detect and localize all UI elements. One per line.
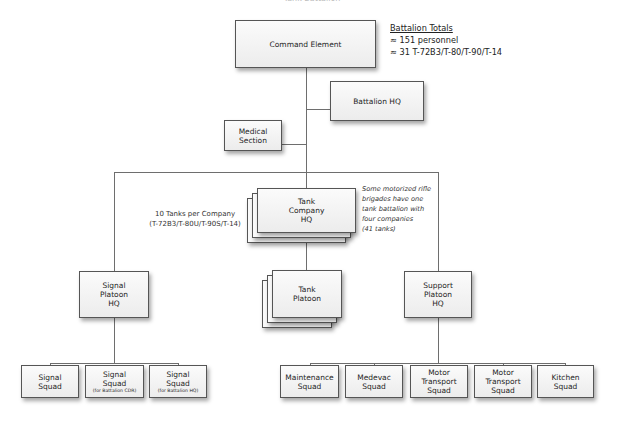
connector-battalion-hq xyxy=(306,109,330,110)
squad-label-line: Maintenance xyxy=(285,373,333,382)
signal-platoon-label-line-1: Signal xyxy=(100,281,128,290)
signal-squad-box: Signal Squad xyxy=(21,365,79,398)
support-platoon-label-line-3: HQ xyxy=(423,299,453,308)
squad-label-line: Transport xyxy=(421,377,456,386)
note-line: (41 tanks) xyxy=(362,224,452,234)
signal-squad-hq-box: Signal Squad (for Battalion HQ) xyxy=(149,365,207,398)
battalion-hq-box: Battalion HQ xyxy=(330,81,424,121)
support-platoon-hq-box: Support Platoon HQ xyxy=(404,271,472,318)
connector-signal-drop xyxy=(114,172,115,271)
medical-section-box: Medical Section xyxy=(224,120,282,151)
command-element-box: Command Element xyxy=(235,20,376,68)
note-line: four companies xyxy=(362,214,452,224)
connector-medical xyxy=(282,144,306,145)
squad-label-line: Squad xyxy=(421,386,456,395)
tank-platoon-label-line-1: Tank xyxy=(293,285,321,294)
medevac-squad-box: Medevac Squad xyxy=(345,365,403,398)
kitchen-squad-box: Kitchen Squad xyxy=(537,365,594,398)
tank-company-label-line-3: HQ xyxy=(289,215,325,224)
connector-signal-trunk xyxy=(114,318,115,363)
squad-label-line: Squad xyxy=(93,379,136,388)
battalion-hq-label: Battalion HQ xyxy=(353,97,401,106)
totals-tanks: ≈ 31 T-72B3/T-80/T-90/T-14 xyxy=(390,46,502,58)
support-platoon-label-line-2: Platoon xyxy=(423,290,453,299)
signal-platoon-label-line-2: Platoon xyxy=(100,290,128,299)
connector-support-trunk xyxy=(438,318,439,363)
squad-label-line: Motor xyxy=(485,368,520,377)
motor-transport-squad-box-1: Motor Transport Squad xyxy=(410,365,468,398)
squad-label-line: Squad xyxy=(38,382,62,391)
squad-label-line: Medevac xyxy=(357,373,391,382)
signal-platoon-label-line-3: HQ xyxy=(100,299,128,308)
command-element-label: Command Element xyxy=(270,40,342,49)
squad-label-line: Squad xyxy=(551,382,579,391)
squad-label-line: Signal xyxy=(93,370,136,379)
battalion-totals: Battalion Totals ≈ 151 personnel ≈ 31 T-… xyxy=(390,22,502,58)
maintenance-squad-box: Maintenance Squad xyxy=(280,365,339,398)
tank-company-label-line-2: Company xyxy=(289,206,325,215)
totals-heading: Battalion Totals xyxy=(390,22,502,34)
squad-label-line: Squad xyxy=(485,386,520,395)
motorized-rifle-note: Some motorized rifle brigades have one t… xyxy=(362,184,452,234)
tank-company-hq-box: Tank Company HQ xyxy=(257,188,356,233)
squad-label-line: Kitchen xyxy=(551,373,579,382)
squad-label-line: Motor xyxy=(421,368,456,377)
connector-company-drop xyxy=(306,172,307,188)
support-platoon-label-line-1: Support xyxy=(423,281,453,290)
squad-label-line: Transport xyxy=(485,377,520,386)
note-line: brigades have one xyxy=(362,194,452,204)
tank-company-label-line-1: Tank xyxy=(289,197,325,206)
squad-label-line: Squad xyxy=(285,382,333,391)
connector-signal-bar xyxy=(50,363,179,364)
connector-support-bar xyxy=(310,363,566,364)
squad-label-line: Squad xyxy=(158,379,199,388)
totals-personnel: ≈ 151 personnel xyxy=(390,34,502,46)
motor-transport-squad-box-2: Motor Transport Squad xyxy=(474,365,532,398)
signal-squad-cdr-box: Signal Squad (for Battalion CDR) xyxy=(85,365,144,398)
tank-platoon-box: Tank Platoon xyxy=(272,270,342,318)
squad-sublabel: (for Battalion CDR) xyxy=(93,388,136,394)
cut-off-title: Tank Battalion xyxy=(232,0,392,2)
tanks-per-company-note: 10 Tanks per Company (T-72B3/T-80U/T-90S… xyxy=(140,209,250,229)
signal-platoon-hq-box: Signal Platoon HQ xyxy=(79,271,149,318)
connector-main-bar xyxy=(114,172,439,173)
note-line: tank battalion with xyxy=(362,204,452,214)
medical-label-line-2: Section xyxy=(239,136,268,145)
connector-command-trunk xyxy=(306,68,307,172)
note-line-2: (T-72B3/T-80U/T-90S/T-14) xyxy=(140,219,250,229)
medical-label-line-1: Medical xyxy=(239,127,268,136)
tank-platoon-label-line-2: Platoon xyxy=(293,294,321,303)
note-line: Some motorized rifle xyxy=(362,184,452,194)
squad-label-line: Squad xyxy=(357,382,391,391)
squad-sublabel: (for Battalion HQ) xyxy=(158,388,199,394)
squad-label-line: Signal xyxy=(158,370,199,379)
squad-label-line: Signal xyxy=(38,373,62,382)
note-line-1: 10 Tanks per Company xyxy=(140,209,250,219)
